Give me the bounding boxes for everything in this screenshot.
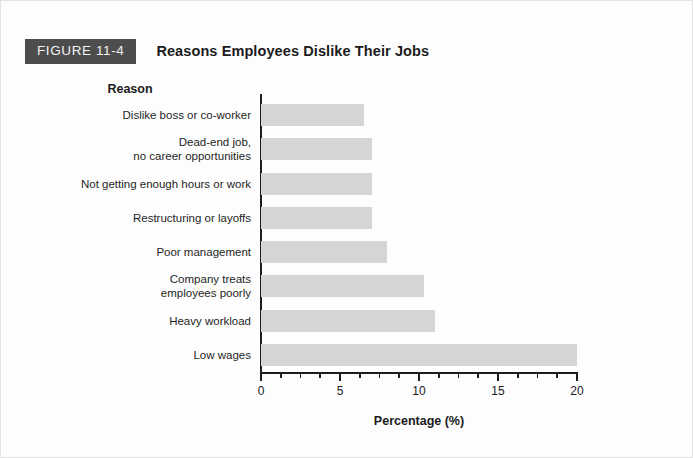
category-label-line: Restructuring or layoffs (133, 211, 251, 225)
bar-row: Company treatsemployees poorly (261, 269, 577, 303)
bar-row: Not getting enough hours or work (261, 167, 577, 201)
category-label-line: employees poorly (161, 286, 251, 300)
category-label: Poor management (156, 235, 251, 269)
x-axis-major-tick (339, 372, 341, 381)
bar-chart: Reason Dislike boss or co-workerDead-end… (1, 1, 693, 458)
bar-row: Poor management (261, 235, 577, 269)
x-axis-minor-tick (379, 372, 381, 378)
bar-row: Restructuring or layoffs (261, 201, 577, 235)
plot-region: Dislike boss or co-workerDead-end job,no… (261, 98, 577, 372)
x-axis-minor-tick (477, 372, 479, 378)
x-axis-minor-tick (359, 372, 361, 378)
x-axis-title: Percentage (%) (261, 414, 577, 428)
x-axis-minor-tick (319, 372, 321, 378)
x-axis-minor-tick (438, 372, 440, 378)
bar (261, 138, 372, 160)
x-axis-minor-tick (458, 372, 460, 378)
category-label: Low wages (193, 338, 251, 372)
x-axis-minor-tick (517, 372, 519, 378)
category-label: Restructuring or layoffs (133, 201, 251, 235)
bar (261, 275, 424, 297)
x-axis-tick-label: 15 (491, 384, 504, 398)
bar-row: Low wages (261, 338, 577, 372)
bar (261, 241, 387, 263)
category-label: Heavy workload (169, 304, 251, 338)
category-label-line: Low wages (193, 348, 251, 362)
x-axis-minor-tick (537, 372, 539, 378)
bar (261, 104, 364, 126)
x-axis-minor-tick (300, 372, 302, 378)
x-axis-major-tick (260, 372, 262, 381)
bar (261, 207, 372, 229)
bar-row: Dead-end job,no career opportunities (261, 132, 577, 166)
figure-page: FIGURE 11-4 Reasons Employees Dislike Th… (0, 0, 693, 458)
bar (261, 310, 435, 332)
x-axis-major-tick (418, 372, 420, 381)
bar (261, 173, 372, 195)
x-axis-minor-tick (556, 372, 558, 378)
category-label-line: no career opportunities (133, 149, 251, 163)
category-label: Company treatsemployees poorly (161, 269, 251, 303)
y-axis-title: Reason (1, 82, 259, 96)
x-axis-tick-label: 20 (570, 384, 583, 398)
category-label-line: Heavy workload (169, 314, 251, 328)
category-label-line: Poor management (156, 245, 251, 259)
category-label-line: Company treats (170, 272, 251, 286)
x-axis-tick-label: 10 (412, 384, 425, 398)
category-label: Dislike boss or co-worker (123, 98, 251, 132)
x-axis-major-tick (497, 372, 499, 381)
bar-row: Heavy workload (261, 304, 577, 338)
x-axis-tick-label: 0 (258, 384, 265, 398)
x-axis-minor-tick (280, 372, 282, 378)
x-axis-minor-tick (398, 372, 400, 378)
category-label-line: Dislike boss or co-worker (123, 108, 251, 122)
x-axis-major-tick (576, 372, 578, 381)
bar (261, 344, 577, 366)
category-label-line: Not getting enough hours or work (81, 177, 251, 191)
category-label-line: Dead-end job, (179, 135, 251, 149)
category-label: Not getting enough hours or work (81, 167, 251, 201)
bar-row: Dislike boss or co-worker (261, 98, 577, 132)
category-label: Dead-end job,no career opportunities (133, 132, 251, 166)
x-axis-tick-label: 5 (337, 384, 344, 398)
